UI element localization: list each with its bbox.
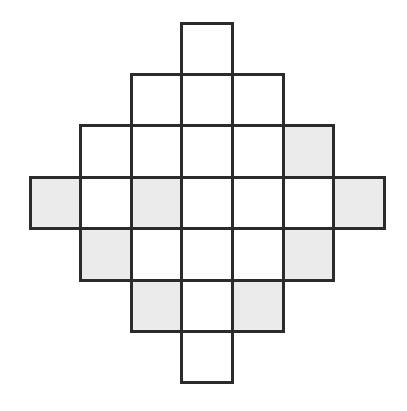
figure-canvas: [0, 0, 407, 411]
grid-diagram: [0, 0, 407, 411]
grid-cell-r3-c5: [283, 177, 334, 228]
grid-cell-r4-c2: [131, 229, 182, 280]
grid-cell-r5-c3: [182, 280, 233, 331]
grid-cell-r2-c4: [232, 126, 283, 177]
white-cells-layer: [81, 23, 334, 383]
grid-cell-r3-c2: [131, 177, 182, 228]
grid-cell-r2-c2: [131, 126, 182, 177]
grid-cell-r2-c5: [283, 126, 334, 177]
grid-cell-r3-c0: [30, 177, 81, 228]
grid-cell-r4-c4: [232, 229, 283, 280]
grid-cell-r4-c3: [182, 229, 233, 280]
grid-cell-r1-c3: [182, 74, 233, 125]
grid-cell-r3-c6: [334, 177, 385, 228]
grid-cell-r2-c3: [182, 126, 233, 177]
grid-cell-r4-c5: [283, 229, 334, 280]
grid-cell-r3-c3: [182, 177, 233, 228]
grid-cell-r5-c4: [232, 280, 283, 331]
grid-cell-r3-c4: [232, 177, 283, 228]
grid-cell-r4-c1: [81, 229, 132, 280]
grid-cell-r3-c1: [81, 177, 132, 228]
grid-cell-r6-c3: [182, 331, 233, 382]
grid-cell-r5-c2: [131, 280, 182, 331]
grid-cell-r1-c2: [131, 74, 182, 125]
grid-cell-r0-c3: [182, 23, 233, 74]
grid-cell-r2-c1: [81, 126, 132, 177]
grid-cell-r1-c4: [232, 74, 283, 125]
